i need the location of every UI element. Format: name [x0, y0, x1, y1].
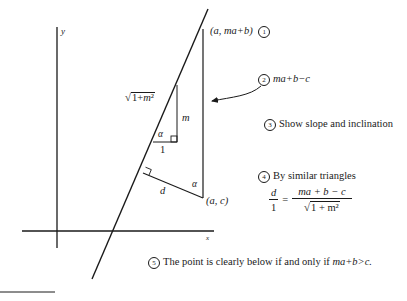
bottom-point-label: (a, c): [206, 196, 228, 207]
side-d-label: d: [160, 186, 165, 197]
note-3: 3Show slope and inclination: [264, 119, 393, 131]
note-number-3: 3: [264, 119, 276, 131]
side-m-label: m: [182, 113, 190, 124]
similar-triangles-equation: d 1 = ma + b − c √1 + m²: [269, 186, 352, 213]
note-5: 5The point is clearly below if and only …: [148, 257, 372, 269]
note-4: 4By similar triangles: [258, 171, 356, 183]
x-axis-label: x: [206, 235, 209, 242]
note-number-4: 4: [258, 171, 270, 183]
side-1-label: 1: [160, 145, 165, 156]
note-2: 2ma+b−c: [258, 74, 310, 86]
hypotenuse-label: √√1+m²1+m²: [125, 92, 155, 104]
right-angle-marker-small: [171, 136, 177, 142]
rhs-fraction: ma + b − c √1 + m²: [292, 186, 351, 213]
alpha-small-label: α: [158, 130, 163, 140]
top-point-label: (a, ma+b) 1: [210, 26, 273, 38]
lhs-fraction: d 1: [269, 187, 278, 213]
y-axis-label: y: [61, 27, 65, 36]
pointer-arrow: [212, 86, 261, 101]
line-y-mx-b: [92, 9, 208, 279]
alpha-big-label: α: [192, 180, 197, 190]
note-number-5: 5: [148, 257, 160, 269]
note-number-1: 1: [258, 26, 270, 38]
note-number-2: 2: [258, 74, 270, 86]
